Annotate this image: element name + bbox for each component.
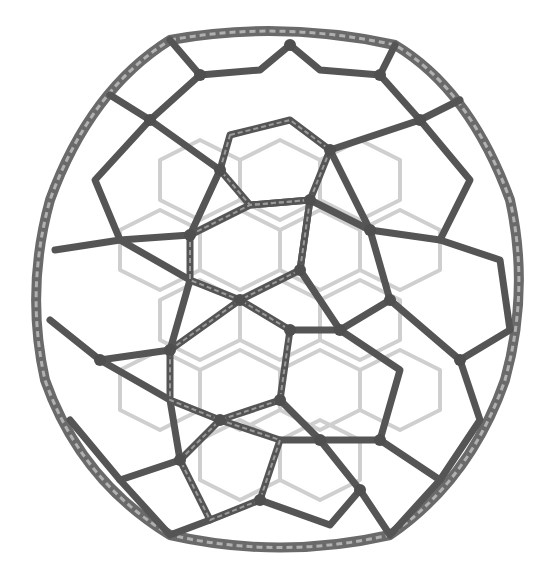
- molecular-cage-image: Spherical/icosahedral cage of interlinke…: [0, 0, 554, 571]
- cage-front-highlights: [170, 120, 330, 520]
- cage-lattice: [0, 0, 554, 571]
